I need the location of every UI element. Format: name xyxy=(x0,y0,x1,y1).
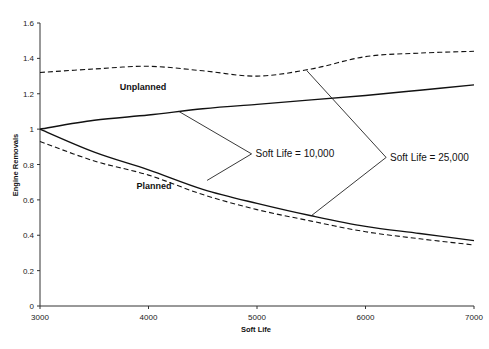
series-line-1 xyxy=(40,85,474,129)
x-axis-title: Soft Life xyxy=(241,325,271,334)
y-axis-title: Engine Removals xyxy=(11,134,20,197)
x-tick-label: 7000 xyxy=(465,313,483,322)
y-tick-label: 1.4 xyxy=(23,54,35,63)
series-line-2 xyxy=(40,129,474,241)
callout-leader-line xyxy=(207,154,251,181)
y-tick-label: 0.4 xyxy=(23,231,35,240)
x-tick-label: 6000 xyxy=(357,313,375,322)
callout-label: Soft Life = 25,000 xyxy=(390,152,469,163)
axes: 00.20.40.60.811.21.41.630004000500060007… xyxy=(23,19,484,322)
y-tick-label: 1 xyxy=(30,125,35,134)
y-tick-label: 0.8 xyxy=(23,161,35,170)
y-tick-label: 1.2 xyxy=(23,90,35,99)
series-line-0 xyxy=(40,51,474,76)
callout-label: Soft Life = 10,000 xyxy=(256,148,335,159)
x-tick-label: 5000 xyxy=(248,313,266,322)
y-tick-label: 0 xyxy=(30,302,35,311)
x-tick-label: 4000 xyxy=(140,313,158,322)
callout-leader-line xyxy=(311,157,386,215)
callout-leader-line xyxy=(307,71,386,158)
x-tick-label: 3000 xyxy=(31,313,49,322)
annotations: UnplannedPlannedSoft Life = 10,000Soft L… xyxy=(120,71,469,216)
callout-leader-line xyxy=(179,111,252,153)
chart: 00.20.40.60.811.21.41.630004000500060007… xyxy=(0,0,489,349)
y-tick-label: 0.6 xyxy=(23,196,35,205)
y-tick-label: 0.2 xyxy=(23,267,35,276)
region-label-planned: Planned xyxy=(136,181,171,191)
region-label-unplanned: Unplanned xyxy=(120,82,167,92)
y-tick-label: 1.6 xyxy=(23,19,35,28)
